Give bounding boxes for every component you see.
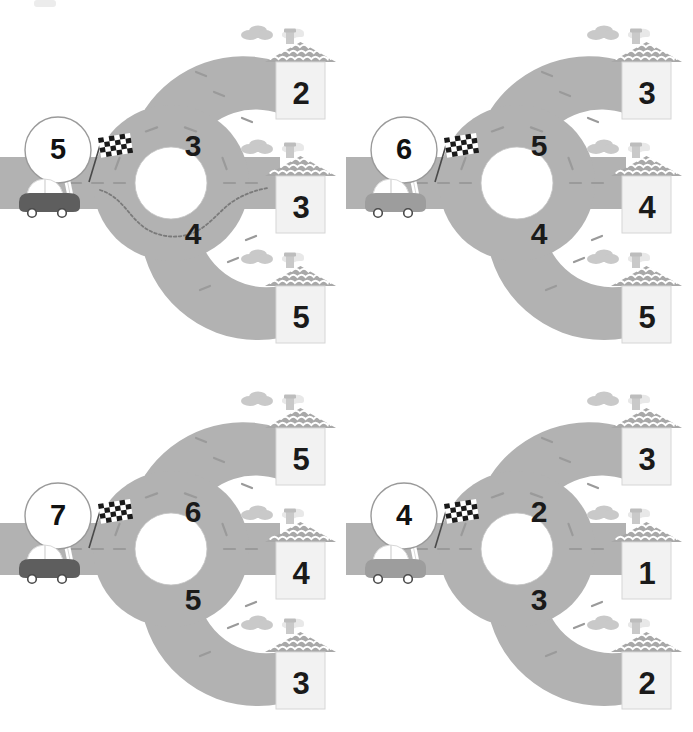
cloud-icon: [241, 616, 304, 631]
worksheet-page: 534235654345765543423312: [0, 0, 693, 732]
house-number-top-label: 2: [281, 78, 321, 109]
cloud-icon: [241, 506, 304, 521]
cloud-icon: [241, 26, 304, 41]
ring-number-upper-label: 3: [176, 131, 210, 161]
cloud-icon: [241, 140, 304, 155]
house-number-middle-label: 1: [627, 558, 667, 589]
house-number-top-label: 3: [627, 78, 667, 109]
start-number-label: 4: [384, 501, 424, 530]
ring-number-upper-label: 5: [522, 131, 556, 161]
ring-number-upper-label: 2: [522, 497, 556, 527]
puzzle-bottom-right[interactable]: 423312: [346, 366, 693, 732]
ring-number-lower-label: 3: [522, 585, 556, 615]
puzzle-bottom-left[interactable]: 765543: [0, 366, 347, 732]
cloud-icon: [241, 250, 304, 265]
puzzle-stage: 423312: [346, 366, 693, 732]
house-number-bottom-label: 5: [627, 302, 667, 333]
puzzle-top-left[interactable]: 534235: [0, 0, 347, 366]
house-number-bottom-label: 2: [627, 668, 667, 699]
cloud-icon: [587, 140, 650, 155]
ring-number-upper-label: 6: [176, 497, 210, 527]
puzzle-stage: 534235: [0, 0, 347, 366]
cloud-icon: [587, 506, 650, 521]
start-number-label: 6: [384, 135, 424, 164]
house-number-middle-label: 3: [281, 192, 321, 223]
cloud-icon: [587, 250, 650, 265]
start-number-label: 5: [38, 135, 78, 164]
puzzle-top-right[interactable]: 654345: [346, 0, 693, 366]
ring-number-lower-label: 4: [522, 219, 556, 249]
puzzle-stage: 654345: [346, 0, 693, 366]
house-number-middle-label: 4: [627, 192, 667, 223]
cloud-icon: [587, 616, 650, 631]
start-number-label: 7: [38, 501, 78, 530]
house-number-bottom-label: 5: [281, 302, 321, 333]
cloud-icon: [241, 392, 304, 407]
ring-number-lower-label: 5: [176, 585, 210, 615]
cloud-icon: [587, 392, 650, 407]
house-number-bottom-label: 3: [281, 668, 321, 699]
ring-number-lower-label: 4: [176, 219, 210, 249]
house-number-top-label: 3: [627, 444, 667, 475]
puzzle-stage: 765543: [0, 366, 347, 732]
house-number-middle-label: 4: [281, 558, 321, 589]
house-number-top-label: 5: [281, 444, 321, 475]
cloud-icon: [587, 26, 650, 41]
